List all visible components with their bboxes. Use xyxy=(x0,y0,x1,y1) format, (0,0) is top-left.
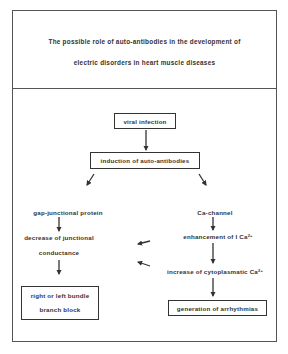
arrow-diagonal-right-icon xyxy=(199,174,206,185)
arrow-diagonal-left-icon xyxy=(87,174,94,185)
arrow-left-icon xyxy=(138,241,150,244)
arrow-left-icon xyxy=(138,262,150,266)
flow-arrows xyxy=(0,0,288,354)
